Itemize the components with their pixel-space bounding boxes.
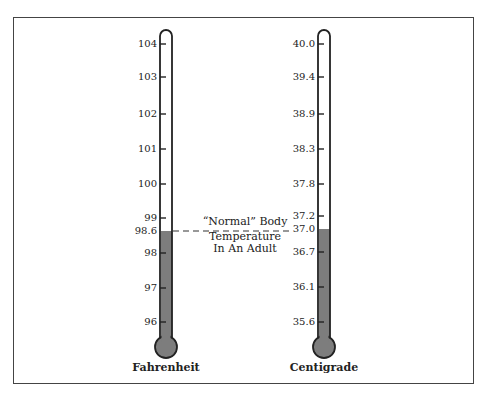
fahrenheit-tick-label: 101 xyxy=(117,143,157,155)
fahrenheit-tick-label: 98 xyxy=(117,247,157,259)
centigrade-title: Centigrade xyxy=(274,361,374,374)
thermometer-graphics xyxy=(0,0,487,393)
centigrade-tick-label: 38.3 xyxy=(275,143,315,155)
centigrade-tick-label: 39.4 xyxy=(275,71,315,83)
annotation-line-1: “Normal” Body xyxy=(180,216,310,228)
fahrenheit-tick-label: 99 xyxy=(117,212,157,224)
centigrade-tick-label: 38.9 xyxy=(275,108,315,120)
fahrenheit-thermometer xyxy=(155,30,177,358)
centigrade-thermometer xyxy=(313,30,335,358)
annotation-line-3: In An Adult xyxy=(180,243,310,255)
fahrenheit-tick-label: 96 xyxy=(117,316,157,328)
fahrenheit-tick-label: 98.6 xyxy=(117,225,157,237)
fahrenheit-tick-label: 100 xyxy=(117,178,157,190)
normal-temperature-annotation: “Normal” Body Temperature In An Adult xyxy=(180,216,310,255)
fahrenheit-title: Fahrenheit xyxy=(116,361,216,374)
fahrenheit-tick-label: 97 xyxy=(117,282,157,294)
centigrade-tick-label: 35.6 xyxy=(275,316,315,328)
fahrenheit-tick-label: 103 xyxy=(117,71,157,83)
centigrade-tick-label: 36.1 xyxy=(275,281,315,293)
fahrenheit-tick-label: 102 xyxy=(117,108,157,120)
fahrenheit-tick-label: 104 xyxy=(117,38,157,50)
centigrade-tick-label: 40.0 xyxy=(275,38,315,50)
centigrade-tick-label: 37.8 xyxy=(275,178,315,190)
